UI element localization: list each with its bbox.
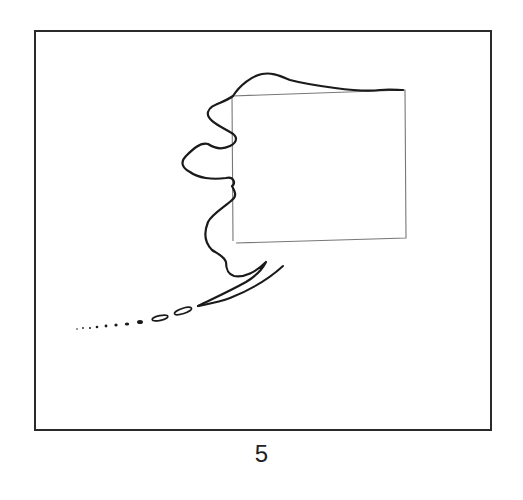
figure-label: 5 <box>0 440 523 468</box>
island-chain <box>152 306 193 322</box>
island-dots <box>76 320 143 330</box>
sketch-drawing <box>0 0 523 500</box>
coastline-outline <box>183 73 403 306</box>
rectangle-outline <box>232 90 406 243</box>
